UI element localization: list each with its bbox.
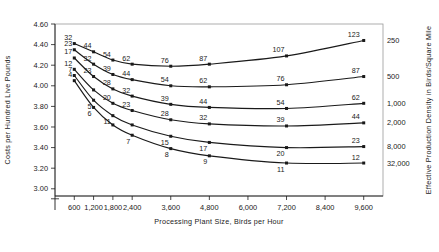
data-point-marker [285, 107, 288, 110]
data-point-label: 23 [352, 136, 360, 145]
y-tick-label: 3.20 [34, 164, 48, 173]
data-point-label: 17 [199, 144, 207, 153]
data-point-marker [73, 42, 76, 45]
data-point-label: 44 [352, 112, 360, 121]
cost-density-line-chart: 3.003.203.403.603.804.004.204.404.606001… [0, 0, 439, 252]
data-point-marker [73, 56, 76, 59]
data-point-label: 20 [103, 93, 111, 102]
data-point-label: 76 [277, 74, 285, 83]
data-point-marker [92, 88, 95, 91]
x-tick-label: 2,400 [123, 203, 142, 212]
data-point-marker [73, 48, 76, 51]
data-point-label: 39 [103, 64, 111, 73]
data-point-label: 54 [161, 75, 169, 84]
y-tick-label: 3.40 [34, 143, 48, 152]
series-right-label-250: 250 [387, 36, 399, 45]
data-point-marker [131, 63, 134, 66]
data-point-label: 123 [348, 30, 360, 39]
x-tick-label: 8,400 [316, 203, 335, 212]
series-curve-1000 [74, 58, 363, 109]
data-point-label: 54 [103, 50, 111, 59]
x-axis-title: Processing Plant Size, Birds per Hour [154, 217, 284, 226]
y-tick-label: 4.00 [34, 81, 48, 90]
x-tick-label: 6,000 [239, 203, 258, 212]
data-point-marker [362, 39, 365, 42]
data-point-marker [169, 103, 172, 106]
data-point-label: 23 [122, 100, 130, 109]
data-point-marker [362, 121, 365, 124]
data-point-marker [111, 59, 114, 62]
data-point-marker [73, 79, 76, 82]
series-right-label-1000: 1,000 [387, 99, 406, 108]
y-tick-label: 3.00 [34, 184, 48, 193]
data-point-marker [208, 63, 211, 66]
data-point-label: 11 [277, 165, 284, 174]
data-point-marker [92, 63, 95, 66]
series-curve-2000 [74, 69, 363, 126]
x-tick-label: 1,200 [84, 203, 103, 212]
data-point-marker [111, 73, 114, 76]
data-point-marker [92, 99, 95, 102]
x-tick-label: 4,800 [200, 203, 219, 212]
data-point-marker [285, 54, 288, 57]
data-point-label: 23 [84, 66, 92, 75]
y-tick-label: 4.40 [34, 40, 48, 49]
y-tick-label: 4.20 [34, 61, 48, 70]
data-point-marker [208, 85, 211, 88]
data-point-label: 54 [277, 98, 285, 107]
data-point-label: 9 [203, 157, 207, 166]
data-point-marker [208, 122, 211, 125]
data-point-marker [362, 162, 365, 165]
data-point-label: 39 [277, 115, 285, 124]
data-point-marker [362, 145, 365, 148]
data-point-label: 44 [84, 41, 92, 50]
data-point-label: 17 [64, 47, 72, 56]
data-point-label: 28 [103, 78, 111, 87]
data-point-marker [111, 102, 114, 105]
y-axis-title: Costs per Hundred Live Pounds [3, 55, 12, 164]
series-curve-32000 [74, 81, 363, 164]
x-tick-label: 600 [68, 203, 80, 212]
y-tick-label: 3.80 [34, 102, 48, 111]
data-point-marker [169, 84, 172, 87]
y-tick-label: 4.60 [34, 20, 48, 29]
data-point-marker [131, 78, 134, 81]
data-point-label: 44 [122, 69, 130, 78]
data-point-label: 20 [277, 149, 285, 158]
data-point-label: 44 [199, 97, 207, 106]
data-point-marker [208, 141, 211, 144]
data-point-marker [169, 147, 172, 150]
data-point-label: 76 [161, 56, 169, 65]
data-point-label: 7 [126, 137, 130, 146]
data-point-marker [169, 118, 172, 121]
data-point-label: 4 [68, 70, 72, 79]
data-point-marker [111, 87, 114, 90]
data-point-label: 87 [352, 66, 360, 75]
data-point-marker [131, 123, 134, 126]
data-point-marker [131, 134, 134, 137]
data-point-label: 107 [273, 45, 285, 54]
data-point-marker [285, 83, 288, 86]
data-point-marker [285, 146, 288, 149]
series-curve-500 [74, 50, 363, 87]
data-point-marker [111, 114, 114, 117]
data-point-marker [208, 154, 211, 157]
data-point-marker [285, 124, 288, 127]
data-point-label: 28 [161, 109, 169, 118]
y2-axis-title: Effective Production Density in Birds/Sq… [424, 26, 433, 194]
series-right-label-8000: 8,000 [387, 142, 406, 151]
chart-container: 3.003.203.403.603.804.004.204.404.606001… [0, 0, 439, 252]
data-point-marker [285, 162, 288, 165]
data-point-marker [131, 95, 134, 98]
data-point-marker [131, 109, 134, 112]
data-point-marker [92, 75, 95, 78]
data-point-label: 12 [352, 153, 360, 162]
series-right-label-500: 500 [387, 72, 399, 81]
data-point-label: 32 [122, 86, 130, 95]
data-point-marker [169, 65, 172, 68]
data-point-label: 32 [84, 54, 92, 63]
data-point-label: 8 [165, 150, 169, 159]
x-tick-label: 9,600 [354, 203, 373, 212]
data-point-label: 39 [161, 94, 169, 103]
data-point-label: 6 [88, 109, 92, 118]
